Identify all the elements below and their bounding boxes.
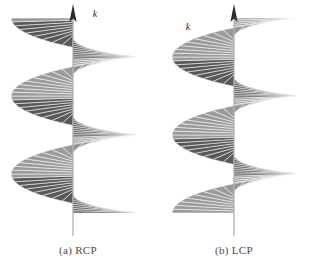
lcp-helix-diagram: k	[156, 0, 312, 240]
lcp-axis-label: k	[186, 21, 191, 32]
helix-spoke	[73, 143, 84, 155]
caption-row: (a) RCP (b) LCP	[0, 240, 312, 271]
helix-spoke	[234, 182, 245, 194]
caption-rcp: (a) RCP	[0, 244, 156, 256]
panel-rcp: k	[0, 0, 156, 240]
helix-spoke	[234, 104, 245, 116]
rcp-helix-diagram: k	[0, 0, 156, 240]
helix-spoke	[73, 65, 84, 77]
polarization-figure: k k (a) RCP (b) LCP	[0, 0, 312, 271]
caption-lcp: (b) LCP	[156, 244, 312, 256]
panel-lcp: k	[156, 0, 312, 240]
rcp-axis-label: k	[93, 8, 98, 19]
helix-spoke	[234, 26, 245, 38]
